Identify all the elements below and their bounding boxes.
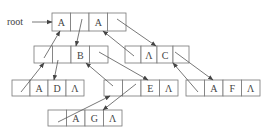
cell-value: A	[95, 17, 103, 28]
node-cell	[108, 13, 127, 31]
list-node-n_root: AA	[52, 13, 126, 31]
cell-value: B	[77, 50, 84, 61]
cell-value: A	[210, 83, 218, 94]
cell-value: C	[162, 50, 169, 61]
pointer-arrow	[86, 63, 113, 86]
node-cell	[53, 46, 72, 63]
list-node-n_AGA: AGΛ	[48, 110, 122, 126]
cell-value: D	[53, 83, 60, 94]
node-cell	[90, 46, 109, 63]
generalized-list-diagram: root AABΛCADΛEΛAFΛAGΛ	[0, 0, 270, 139]
pointer-arrow	[175, 52, 213, 80]
cell-value: A	[58, 17, 66, 28]
node-cell	[12, 80, 30, 96]
list-node-n_AFA: AFΛ	[186, 80, 260, 96]
nodes-layer: AABΛCADΛEΛAFΛAGΛ	[12, 13, 260, 126]
node-cell	[48, 110, 67, 126]
pointer-arrow	[117, 19, 156, 46]
node-cell	[123, 80, 142, 96]
null-symbol: Λ	[145, 50, 153, 61]
list-node-n_E: EΛ	[104, 80, 178, 96]
node-cell	[104, 80, 123, 96]
list-node-n_B: B	[34, 46, 108, 63]
list-node-n_ADA: ADΛ	[12, 80, 84, 96]
cell-value: A	[35, 83, 43, 94]
cell-value: E	[147, 83, 153, 94]
cell-value: G	[91, 113, 98, 124]
list-node-n_C: ΛC	[125, 46, 189, 63]
node-cell	[125, 46, 141, 63]
root-label: root	[7, 16, 23, 27]
cell-value: F	[229, 83, 235, 94]
null-symbol: Λ	[109, 113, 117, 124]
null-symbol: Λ	[247, 83, 255, 94]
null-symbol: Λ	[71, 83, 79, 94]
edges-layer	[21, 19, 213, 122]
node-cell	[186, 80, 205, 96]
null-symbol: Λ	[165, 83, 173, 94]
